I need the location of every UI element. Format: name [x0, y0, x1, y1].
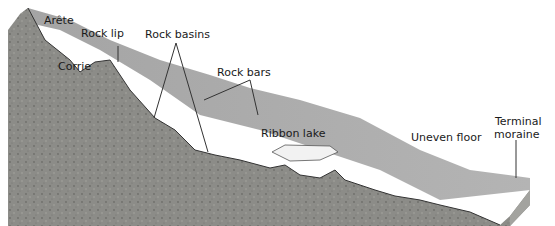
- label-rock-basins: Rock basins: [145, 28, 210, 41]
- label-rock-lip: Rock lip: [81, 27, 124, 40]
- label-moraine: moraine: [494, 128, 540, 141]
- label-terminal: Terminal: [495, 115, 542, 128]
- glacial-valley-diagram: Arête Rock lip Corrie Rock basins Rock b…: [0, 0, 555, 226]
- label-arete: Arête: [44, 14, 74, 27]
- ribbon-lake: [272, 145, 338, 161]
- label-ribbon-lake: Ribbon lake: [261, 127, 325, 140]
- label-rock-bars: Rock bars: [217, 66, 271, 79]
- label-corrie: Corrie: [58, 60, 91, 73]
- label-uneven-floor: Uneven floor: [411, 131, 481, 144]
